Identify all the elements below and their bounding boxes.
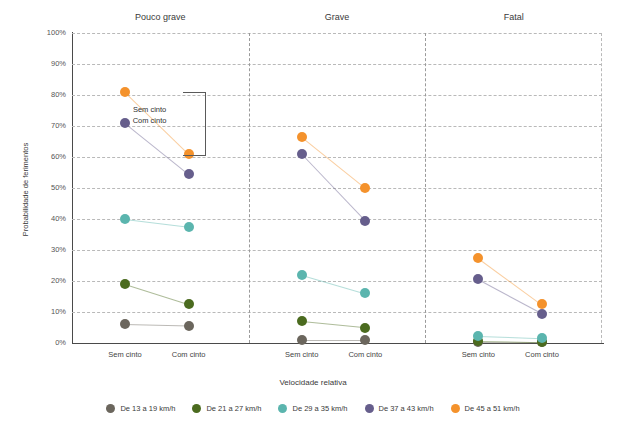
series-line	[125, 324, 189, 327]
gridline	[72, 219, 602, 220]
legend-label: De 29 a 35 km/h	[292, 404, 347, 413]
data-point-marker[interactable]	[184, 222, 194, 232]
panel-title-3: Fatal	[425, 12, 602, 22]
gridline	[72, 312, 602, 313]
legend-item-1[interactable]: De 13 a 19 km/h	[106, 404, 175, 413]
data-point-marker[interactable]	[473, 274, 483, 284]
data-point-marker[interactable]	[120, 214, 130, 224]
data-point-marker[interactable]	[297, 335, 307, 345]
data-point-marker[interactable]	[120, 319, 130, 329]
gridline	[72, 188, 602, 189]
x-tick-label: Com cinto	[525, 350, 559, 359]
y-tick-label: 10%	[32, 308, 66, 316]
series-line	[302, 340, 366, 341]
annotation-line-2: Com cinto	[119, 115, 181, 126]
gridline	[72, 126, 602, 127]
data-point-marker[interactable]	[120, 279, 130, 289]
data-point-marker[interactable]	[120, 87, 130, 97]
data-point-marker[interactable]	[297, 270, 307, 280]
chart-legend: De 13 a 19 km/hDe 21 a 27 km/hDe 29 a 35…	[0, 404, 626, 413]
series-line	[125, 219, 189, 228]
y-tick-label: 50%	[32, 184, 66, 192]
legend-swatch-icon	[365, 404, 374, 413]
y-tick-label: 100%	[32, 29, 66, 37]
series-line	[125, 123, 189, 175]
legend-swatch-icon	[106, 404, 115, 413]
legend-label: De 21 a 27 km/h	[206, 404, 261, 413]
x-tick-label: Sem cinto	[462, 350, 495, 359]
series-line	[302, 321, 366, 328]
annotation-label: Sem cintoCom cinto	[119, 104, 181, 126]
legend-item-4[interactable]: De 37 a 43 km/h	[365, 404, 434, 413]
y-tick-label: 40%	[32, 215, 66, 223]
y-tick-label: 80%	[32, 91, 66, 99]
y-tick-label: 20%	[32, 277, 66, 285]
annotation-bracket	[183, 92, 206, 156]
data-point-marker[interactable]	[360, 216, 370, 226]
gridline	[72, 95, 602, 96]
plot-area: Sem cintoCom cinto	[72, 33, 602, 343]
series-line	[478, 336, 542, 339]
panel-separator	[249, 33, 250, 343]
gridline	[72, 64, 602, 65]
gridline	[72, 33, 602, 34]
legend-item-3[interactable]: De 29 a 35 km/h	[278, 404, 347, 413]
x-tick-label: Com cinto	[348, 350, 382, 359]
data-point-marker[interactable]	[360, 288, 370, 298]
series-line	[301, 275, 365, 295]
panel-title-1: Pouco grave	[72, 12, 249, 22]
data-point-marker[interactable]	[360, 323, 370, 333]
legend-swatch-icon	[192, 404, 201, 413]
legend-label: De 13 a 19 km/h	[120, 404, 175, 413]
x-tick-label: Sem cinto	[108, 350, 141, 359]
x-axis-title: Velocidade relativa	[0, 378, 626, 387]
data-point-marker[interactable]	[297, 149, 307, 159]
gridline	[72, 157, 602, 158]
y-tick-label: 70%	[32, 122, 66, 130]
data-point-marker[interactable]	[184, 299, 194, 309]
legend-label: De 45 a 51 km/h	[465, 404, 520, 413]
x-tick-label: Sem cinto	[285, 350, 318, 359]
gridline	[72, 281, 602, 282]
panel-separator	[425, 33, 426, 343]
x-tick-label: Com cinto	[172, 350, 206, 359]
legend-swatch-icon	[451, 404, 460, 413]
gridline	[72, 250, 602, 251]
legend-swatch-icon	[278, 404, 287, 413]
data-point-marker[interactable]	[184, 169, 194, 179]
data-point-marker[interactable]	[360, 183, 370, 193]
annotation-line-1: Sem cinto	[119, 104, 181, 115]
data-point-marker[interactable]	[537, 309, 547, 319]
insurance-probability-chart: Probabilidade de ferimentos 0%10%20%30%4…	[0, 0, 626, 448]
y-tick-label: 30%	[32, 246, 66, 254]
legend-label: De 37 a 43 km/h	[379, 404, 434, 413]
legend-item-2[interactable]: De 21 a 27 km/h	[192, 404, 261, 413]
series-line	[125, 284, 189, 305]
legend-item-5[interactable]: De 45 a 51 km/h	[451, 404, 520, 413]
panel-separator	[601, 33, 602, 343]
y-tick-label: 90%	[32, 60, 66, 68]
y-tick-label: 0%	[32, 339, 66, 347]
data-point-marker[interactable]	[297, 132, 307, 142]
data-point-marker[interactable]	[537, 299, 547, 309]
panel-title-2: Grave	[249, 12, 426, 22]
y-tick-label: 60%	[32, 153, 66, 161]
data-point-marker[interactable]	[184, 321, 194, 331]
data-point-marker[interactable]	[297, 316, 307, 326]
